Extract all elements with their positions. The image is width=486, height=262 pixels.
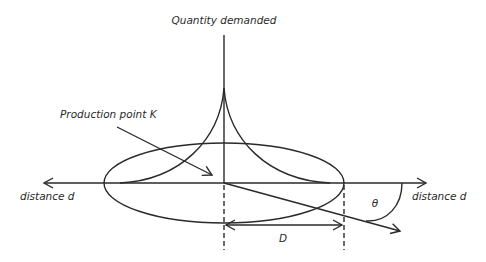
axis-left-label: distance d bbox=[20, 190, 75, 202]
angle-label: θ bbox=[372, 197, 379, 209]
vertical-axis-label: Quantity demanded bbox=[172, 14, 277, 26]
production-point-arrow bbox=[117, 127, 212, 175]
production-point-label: Production point K bbox=[60, 108, 158, 120]
radius-label: D bbox=[279, 232, 287, 244]
spatial-demand-diagram: Quantity demanded Production point K dis… bbox=[0, 0, 486, 262]
demand-curve-right bbox=[224, 88, 330, 183]
axis-right-label: distance d bbox=[412, 190, 467, 202]
demand-curve-left bbox=[120, 88, 224, 183]
